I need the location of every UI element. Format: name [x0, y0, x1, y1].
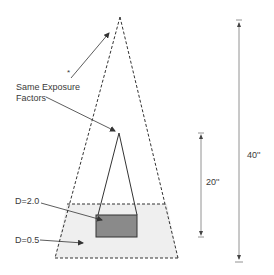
inner-cone-left-edge	[98, 133, 119, 215]
density-low-label: D=0.5	[15, 235, 39, 246]
density-high-label: D=2.0	[15, 196, 39, 207]
diagram-graphics	[0, 0, 274, 275]
high-density-object	[96, 215, 137, 237]
same-exposure-label-line1: Same Exposure	[16, 82, 80, 93]
inner-cone-right-edge	[119, 133, 137, 215]
asterisk-mark: *	[67, 67, 70, 78]
dim-40-arrow-down	[237, 255, 241, 260]
dim-20-arrow-down	[199, 231, 203, 236]
dim-40-arrow-up	[237, 22, 241, 27]
pointer-to-inner-apex	[46, 97, 115, 131]
same-exposure-label-line2: Factors	[16, 93, 46, 104]
pointer-to-outer-apex	[71, 33, 109, 78]
distance-40-label: 40''	[247, 150, 260, 161]
distance-20-label: 20''	[206, 177, 219, 188]
diagram-canvas: * Same Exposure Factors D=2.0 D=0.5 20''…	[0, 0, 274, 275]
dim-20-arrow-up	[199, 134, 203, 139]
